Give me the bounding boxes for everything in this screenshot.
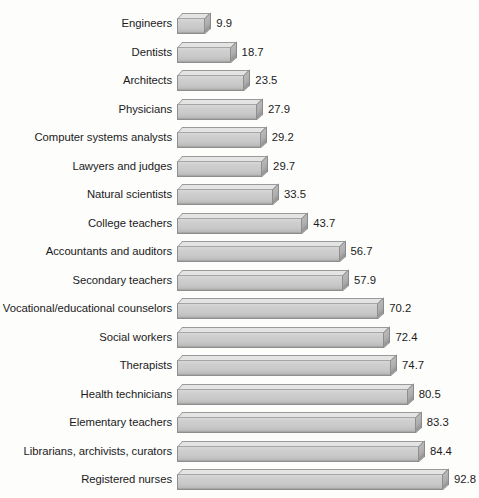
category-label: Natural scientists [0,188,172,200]
bar [177,127,267,148]
value-label: 23.5 [255,74,277,86]
bar [177,42,237,63]
bar-front-face [177,246,340,262]
bar-row: Librarians, archivists, curators84.4 [0,437,479,466]
value-label: 9.9 [216,17,232,29]
bar-front-face [177,303,378,319]
category-label: Secondary teachers [0,274,172,286]
category-label: Librarians, archivists, curators [0,445,172,457]
bar-front-face [177,389,408,405]
category-label: Accountants and auditors [0,245,172,257]
category-label: Health technicians [0,388,172,400]
category-label: Social workers [0,331,172,343]
value-label: 18.7 [242,46,264,58]
bar-front-face [177,104,257,120]
value-label: 80.5 [419,388,441,400]
bar [177,184,279,205]
value-label: 56.7 [351,245,373,257]
value-label: 83.3 [427,416,449,428]
value-label: 29.2 [272,131,294,143]
bar-row: Secondary teachers57.9 [0,266,479,295]
category-label: Physicians [0,103,172,115]
bar-row: Accountants and auditors56.7 [0,237,479,266]
bar-front-face [177,417,416,433]
bar [177,469,449,490]
category-label: Dentists [0,46,172,58]
bar-front-face [177,360,391,376]
bar-row: Engineers9.9 [0,9,479,38]
bar-row: Registered nurses92.8 [0,465,479,494]
value-label: 74.7 [402,359,424,371]
bar-row: Architects23.5 [0,66,479,95]
bar-front-face [177,332,384,348]
value-label: 72.4 [395,331,417,343]
bar-row: Elementary teachers83.3 [0,408,479,437]
bar [177,412,422,433]
bar-front-face [177,75,244,91]
bar-front-face [177,474,443,490]
bar-chart: Engineers9.9Dentists18.7Architects23.5Ph… [0,0,479,498]
bar-side-face [262,155,268,176]
bar [177,70,250,91]
value-label: 43.7 [313,217,335,229]
bar-row: Health technicians80.5 [0,380,479,409]
bar-side-face [340,241,346,262]
bar-front-face [177,218,302,234]
bar-side-face [273,184,279,205]
category-label: Elementary teachers [0,416,172,428]
bar [177,241,346,262]
bar-row: Vocational/educational counselors70.2 [0,294,479,323]
bar-row: Social workers72.4 [0,323,479,352]
bar-row: Therapists74.7 [0,351,479,380]
bar-front-face [177,132,261,148]
bar-side-face [302,212,308,233]
category-label: College teachers [0,217,172,229]
bar-row: Dentists18.7 [0,38,479,67]
bar-row: Computer systems analysts29.2 [0,123,479,152]
bar-front-face [177,446,419,462]
bar [177,441,425,462]
bar-row: Physicians27.9 [0,95,479,124]
category-label: Vocational/educational counselors [0,302,172,314]
bar-side-face [443,469,449,490]
value-label: 70.2 [389,302,411,314]
bar-side-face [391,355,397,376]
bar-row: Lawyers and judges29.7 [0,152,479,181]
bar-side-face [378,298,384,319]
category-label: Registered nurses [0,473,172,485]
bar-front-face [177,47,231,63]
value-label: 92.8 [454,473,476,485]
bar-row: College teachers43.7 [0,209,479,238]
value-label: 33.5 [284,188,306,200]
bar [177,270,349,291]
bar-front-face [177,275,343,291]
value-label: 84.4 [430,445,452,457]
bar-front-face [177,161,262,177]
bar-side-face [261,127,267,148]
category-label: Therapists [0,359,172,371]
bar-side-face [416,412,422,433]
category-label: Architects [0,74,172,86]
category-label: Computer systems analysts [0,131,172,143]
bar [177,99,263,120]
bar [177,384,414,405]
value-label: 57.9 [354,274,376,286]
category-label: Engineers [0,17,172,29]
bar [177,327,390,348]
bar-row: Natural scientists33.5 [0,180,479,209]
bar-front-face [177,189,273,205]
bar [177,355,397,376]
bar [177,298,384,319]
bar-side-face [205,13,211,34]
value-label: 29.7 [273,160,295,172]
bar-side-face [384,326,390,347]
bar [177,213,308,234]
bar [177,156,268,177]
bar [177,13,211,34]
bar-side-face [244,70,250,91]
bar-front-face [177,18,205,34]
value-label: 27.9 [268,103,290,115]
category-label: Lawyers and judges [0,160,172,172]
